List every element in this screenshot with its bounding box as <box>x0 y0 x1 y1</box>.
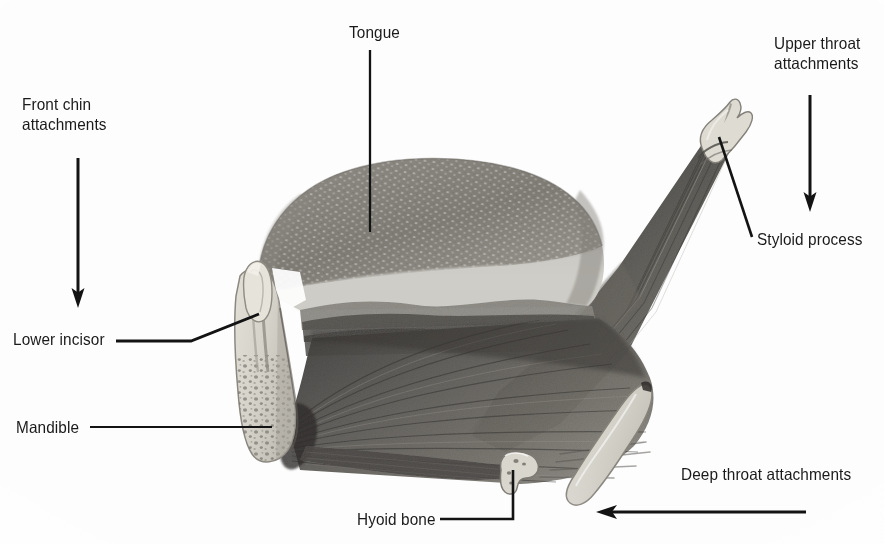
anatomy-illustration <box>0 0 884 544</box>
label-deep-throat-attachments: Deep throat attachments <box>681 464 851 484</box>
anatomy-figure: Front chin attachments Tongue Upper thro… <box>0 0 884 544</box>
label-hyoid-bone: Hyoid bone <box>357 509 436 529</box>
label-upper-throat-attachments: Upper throat attachments <box>774 33 860 73</box>
label-tongue: Tongue <box>349 22 400 42</box>
label-styloid-process: Styloid process <box>757 229 862 249</box>
label-mandible: Mandible <box>16 417 79 437</box>
label-front-chin-attachments: Front chin attachments <box>22 94 122 134</box>
label-lower-incisor: Lower incisor <box>13 329 105 349</box>
